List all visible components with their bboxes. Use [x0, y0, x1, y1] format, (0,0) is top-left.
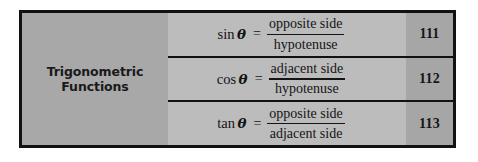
formula-row-sin: sinθ = opposite side hypotenuse	[168, 13, 406, 56]
equation-tan: tanθ = opposite side adjacent side	[217, 106, 345, 142]
fraction-sin: opposite side hypotenuse	[267, 16, 345, 52]
fraction-numerator-cos: adjacent side	[269, 61, 346, 77]
table-label: Trigonometric Functions	[47, 64, 144, 95]
function-name-cos: cos	[217, 71, 236, 87]
page-number-sin: 111	[419, 26, 439, 42]
table-label-line-2: Functions	[47, 79, 144, 94]
fraction-bar-tan	[267, 123, 345, 125]
fraction-denominator-cos: hypotenuse	[273, 81, 341, 97]
fraction-bar-sin	[267, 34, 345, 36]
equals-sign-cos: =	[255, 71, 263, 87]
function-name-tan: tan	[217, 115, 235, 131]
table-label-line-1: Trigonometric	[47, 64, 144, 79]
function-name-sin: sin	[218, 26, 235, 42]
page-number-cell-tan: 113	[406, 100, 453, 145]
fraction-numerator-tan: opposite side	[267, 106, 345, 122]
page-number-cell-sin: 111	[406, 13, 453, 56]
equation-lhs-tan: tanθ	[217, 115, 246, 132]
page-number-cos: 112	[419, 71, 440, 87]
equation-cos: cosθ = adjacent side hypotenuse	[217, 61, 345, 97]
formula-row-cos: cosθ = adjacent side hypotenuse	[168, 56, 406, 101]
formula-column: sinθ = opposite side hypotenuse cosθ = a…	[168, 13, 406, 145]
theta-symbol-tan: θ	[237, 115, 246, 131]
equation-sin: sinθ = opposite side hypotenuse	[218, 16, 345, 52]
fraction-denominator-sin: hypotenuse	[272, 37, 340, 53]
trigonometric-functions-table: Trigonometric Functions sinθ = opposite …	[19, 10, 456, 148]
equation-lhs-cos: cosθ	[217, 71, 248, 88]
theta-symbol-sin: θ	[237, 26, 246, 42]
fraction-numerator-sin: opposite side	[267, 16, 345, 32]
equals-sign-sin: =	[253, 26, 261, 42]
equation-lhs-sin: sinθ	[218, 26, 246, 43]
page-number-cell-cos: 112	[406, 56, 453, 101]
table-label-cell: Trigonometric Functions	[22, 13, 168, 145]
page-number-tan: 113	[419, 116, 440, 132]
fraction-denominator-tan: adjacent side	[268, 126, 345, 142]
formula-row-tan: tanθ = opposite side adjacent side	[168, 100, 406, 145]
fraction-cos: adjacent side hypotenuse	[269, 61, 346, 97]
fraction-tan: opposite side adjacent side	[267, 106, 345, 142]
fraction-bar-cos	[269, 78, 346, 80]
equals-sign-tan: =	[253, 116, 261, 132]
theta-symbol-cos: θ	[239, 71, 248, 87]
page-number-column: 111 112 113	[406, 13, 453, 145]
